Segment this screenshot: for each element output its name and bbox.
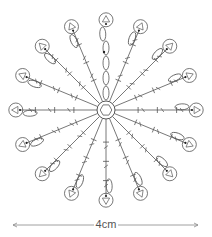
picot-icon: [16, 68, 30, 82]
center-ring: [97, 101, 115, 119]
picot-icon: [182, 68, 196, 82]
chain-stitch-icon: [99, 27, 106, 41]
chain-stitch-icon: [103, 56, 109, 70]
picot-icon: [134, 20, 148, 34]
picot-icon: [64, 20, 78, 34]
scale-label: 4cm: [0, 218, 212, 230]
picot-icon: [163, 167, 177, 181]
spoke: [99, 13, 137, 100]
spoke: [112, 116, 176, 186]
picot-icon: [35, 39, 49, 53]
picot-icon: [16, 138, 30, 152]
spoke: [35, 33, 99, 103]
spoke: [115, 103, 203, 141]
chain-stitch-icon: [103, 86, 109, 100]
spoke: [112, 39, 182, 103]
spoke: [9, 79, 97, 117]
crochet-chart-diagram: [0, 0, 212, 237]
picot-icon: [163, 39, 177, 53]
picot-icon: [134, 186, 148, 200]
chain-stitch-icon: [103, 71, 109, 85]
picot-icon: [182, 138, 196, 152]
picot-icon: [64, 186, 78, 200]
chain-stitch-icon: [68, 33, 79, 48]
spoke: [29, 116, 99, 180]
picot-icon: [35, 167, 49, 181]
spoke: [75, 119, 113, 207]
